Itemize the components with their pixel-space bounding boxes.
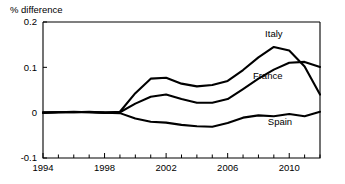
chart-axes [43,22,320,158]
chart-series-lines [43,47,320,127]
x-tick-label: 1998 [94,162,115,173]
y-tick-label: 0.1 [24,62,37,73]
series-label-france: France [253,70,283,81]
y-tick-label: 0 [32,107,37,118]
y-axis-tick-labels: 0.20.10-0.1 [21,16,37,163]
chart-container: 0.20.10-0.1 19941998200220062010 ItalyFr… [0,0,345,184]
x-tick-label: 2006 [217,162,238,173]
axis-spine [43,22,320,158]
y-tick-label: 0.2 [24,16,37,27]
series-label-spain: Spain [268,116,292,127]
line-chart: 0.20.10-0.1 19941998200220062010 ItalyFr… [0,0,345,184]
x-tick-label: 2010 [279,162,300,173]
chart-tick-marks [43,22,320,158]
x-tick-label: 1994 [32,162,53,173]
y-axis-title: % difference [10,4,63,15]
series-label-italy: Italy [265,28,283,39]
x-axis-tick-labels: 19941998200220062010 [32,162,299,173]
x-tick-label: 2002 [156,162,177,173]
chart-series-annotations: ItalyFranceSpain [253,28,292,128]
